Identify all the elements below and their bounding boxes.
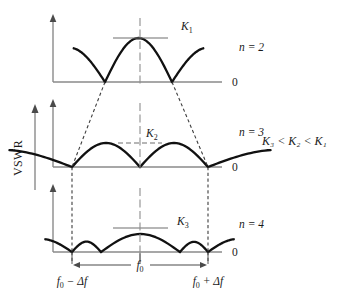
vswr-axis-label: VSWR <box>11 140 25 176</box>
lobe-curve <box>105 38 172 82</box>
n-order-label: n = 2 <box>239 41 264 53</box>
freq-left-label: f0 − Δf <box>57 275 89 290</box>
left-edge-partial-lobe <box>45 239 72 252</box>
lobe-curve <box>180 242 208 252</box>
n-order-label: n = 4 <box>239 218 264 230</box>
k-label: K2 <box>145 127 158 142</box>
right-edge-partial-lobe <box>208 150 271 167</box>
inequality-note: K₃ < K₂ < K₁ <box>261 134 327 148</box>
right-edge-partial-lobe <box>172 48 203 82</box>
lobe-curve <box>72 242 101 252</box>
k-label-subscript: 1 <box>189 26 193 35</box>
panel-n4: K3n = 40 <box>45 184 264 258</box>
k-label: K1 <box>180 20 193 35</box>
vertical-axis-arrow <box>50 184 57 192</box>
right-edge-partial-lobe <box>208 239 234 252</box>
panel-n2: K1n = 20 <box>50 14 265 88</box>
vertical-axis-arrow <box>50 14 57 22</box>
panels-group: K1n = 20K2n = 30K3n = 40 <box>9 14 270 258</box>
k-label-subscript: 3 <box>185 221 189 230</box>
lobe-curve <box>72 143 140 167</box>
zero-level-label: 0 <box>232 161 238 173</box>
k-label: K3 <box>176 215 189 230</box>
vswr-response-diagram: VSWR K1n = 20K2n = 30K3n = 40 f0 f0 − Δf… <box>0 0 354 294</box>
k-label-subscript: 2 <box>154 133 158 142</box>
vswr-axis-label-group: VSWR <box>11 104 39 190</box>
link-right-upper <box>172 82 208 167</box>
lobe-curve <box>140 143 208 167</box>
vswr-arrow-head <box>32 104 39 113</box>
frequency-axis-group: f0 f0 − Δf f0 + Δf <box>57 253 225 290</box>
zero-level-label: 0 <box>232 76 238 88</box>
vertical-axis-arrow <box>50 99 57 107</box>
left-edge-partial-lobe <box>74 48 105 82</box>
span-arrow-left-head <box>73 262 80 268</box>
zero-level-label: 0 <box>232 246 238 258</box>
link-left-upper <box>72 82 105 167</box>
n-order-label: n = 3 <box>239 126 264 138</box>
span-arrow-right-head <box>200 262 207 268</box>
freq-right-label: f0 + Δf <box>193 275 225 290</box>
